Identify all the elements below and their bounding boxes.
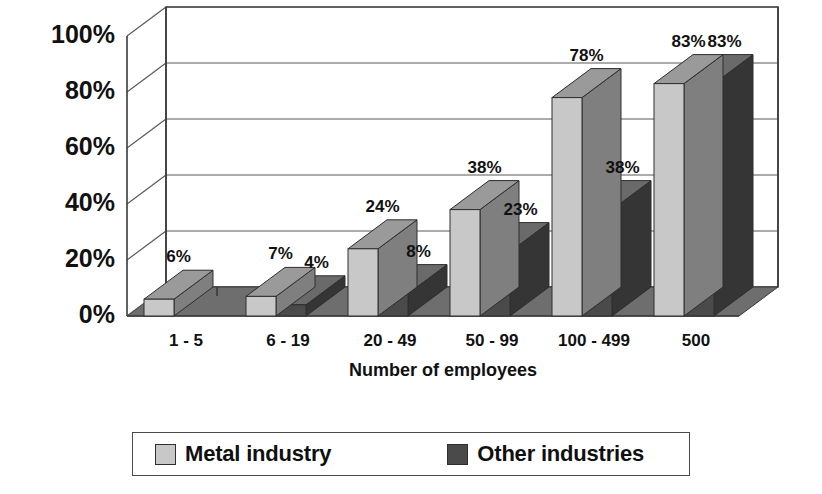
bar-metal-industry [654,55,723,316]
x-axis-tick-label: 100 - 499 [558,331,630,350]
y-axis-labels: 0%20%40%60%80%100% [51,20,115,328]
data-label-other-industries: 83% [707,32,741,51]
bar-metal-industry [552,69,621,316]
axis-depth-connector [127,7,166,36]
data-label-other-industries: 38% [605,158,639,177]
data-label-metal-industry: 38% [467,158,501,177]
axis-depth-connector [127,63,166,92]
y-axis-tick-label: 60% [65,132,115,160]
axis-depth-connector [127,175,166,204]
data-label-metal-industry: 78% [569,46,603,65]
data-label-other-industries: 23% [503,200,537,219]
axis-depth-connector [127,119,166,148]
y-axis-tick-label: 0% [79,300,115,328]
legend-label-metal-industry: Metal industry [185,441,331,467]
x-axis-tick-label: 500 [682,331,710,350]
x-axis-tick-label: 20 - 49 [364,331,417,350]
legend-item-other-industries: Other industries [447,441,644,467]
data-label-metal-industry: 6% [166,247,191,266]
data-label-metal-industry: 24% [365,197,399,216]
chart-figure: 6%7%4%24%8%38%23%78%38%83%83% 0%20%40%60… [0,0,822,494]
y-axis-tick-label: 40% [65,188,115,216]
x-axis-labels: 1 - 56 - 1920 - 4950 - 99100 - 499500 [169,331,710,350]
legend-swatch-metal-industry [155,444,176,465]
data-label-metal-industry: 7% [268,244,293,263]
legend-swatch-other-industries [447,444,468,465]
legend-item-metal-industry: Metal industry [155,441,331,467]
x-axis-tick-label: 1 - 5 [169,331,203,350]
data-label-other-industries: 8% [406,242,431,261]
x-axis-tick-label: 50 - 99 [466,331,519,350]
bar-chart-canvas: 6%7%4%24%8%38%23%78%38%83%83% 0%20%40%60… [0,0,822,494]
axis-depth-connector [127,231,166,260]
legend-label-other-industries: Other industries [477,441,644,467]
x-axis-title-text: Number of employees [349,360,537,380]
x-axis-tick-label: 6 - 19 [266,331,309,350]
chart-legend: Metal industry Other industries [132,432,690,476]
y-axis-tick-label: 100% [51,20,115,48]
y-axis-tick-label: 20% [65,244,115,272]
data-label-other-industries: 4% [304,253,329,272]
x-axis-title: Number of employees [349,360,537,380]
y-axis-tick-label: 80% [65,76,115,104]
data-label-metal-industry: 83% [671,32,705,51]
